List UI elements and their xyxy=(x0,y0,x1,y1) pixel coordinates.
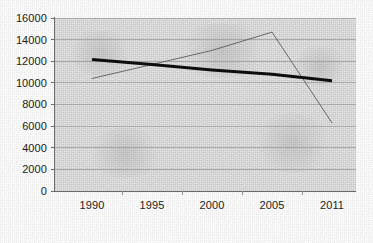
scan-blotch xyxy=(65,30,135,76)
x-tick-mark xyxy=(242,191,243,195)
gridline-14000 xyxy=(55,39,356,40)
x-tick-mark xyxy=(302,191,303,195)
x-tick-label-1990: 1990 xyxy=(64,199,120,211)
y-tick-mark xyxy=(51,126,55,127)
y-tick-label-16000: 16000 xyxy=(1,13,47,24)
y-tick-label-10000: 10000 xyxy=(1,78,47,89)
y-tick-label-14000: 14000 xyxy=(1,35,47,46)
y-tick-label-8000: 8000 xyxy=(1,99,47,110)
scan-blotch xyxy=(85,128,165,178)
y-tick-mark xyxy=(51,61,55,62)
x-tick-label-2000: 2000 xyxy=(184,199,240,211)
y-tick-mark xyxy=(51,82,55,83)
scan-blotch xyxy=(290,46,350,86)
x-tick-label-1995: 1995 xyxy=(124,199,180,211)
x-axis-line xyxy=(54,191,356,192)
y-tick-label-4000: 4000 xyxy=(1,143,47,154)
y-tick-mark xyxy=(51,18,55,19)
x-tick-mark xyxy=(182,191,183,195)
y-tick-mark xyxy=(51,191,55,192)
y-tick-label-2000: 2000 xyxy=(1,164,47,175)
scan-blotch xyxy=(250,113,335,173)
y-tick-label-6000: 6000 xyxy=(1,121,47,132)
gridline-16000 xyxy=(55,18,356,19)
gridline-12000 xyxy=(55,61,356,62)
line-chart: 16000 14000 12000 10000 8000 6000 4000 2… xyxy=(0,0,373,243)
y-tick-mark xyxy=(51,39,55,40)
y-tick-mark xyxy=(51,104,55,105)
x-tick-label-2005: 2005 xyxy=(244,199,300,211)
y-tick-mark xyxy=(51,147,55,148)
gridline-2000 xyxy=(55,169,356,170)
y-tick-label-0: 0 xyxy=(1,186,47,197)
gridline-4000 xyxy=(55,147,356,148)
gridline-6000 xyxy=(55,126,356,127)
x-tick-mark xyxy=(122,191,123,195)
y-tick-mark xyxy=(51,169,55,170)
y-tick-label-12000: 12000 xyxy=(1,56,47,67)
gridline-8000 xyxy=(55,104,356,105)
scan-blotch xyxy=(175,23,270,78)
x-tick-label-2011: 2011 xyxy=(304,199,360,211)
gridline-10000 xyxy=(55,82,356,83)
